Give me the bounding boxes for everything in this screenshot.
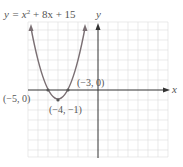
point-label-neg5-0: (−5, 0) <box>3 93 30 105</box>
point-label-neg4-neg1: (−4, −1) <box>49 104 82 116</box>
point-vertex <box>56 98 59 101</box>
parabola-graph: y = x2 + 8x + 15 y x (−3, 0) (−5, 0) (−4… <box>0 0 183 167</box>
y-axis-label: y <box>95 8 101 20</box>
point-label-neg3-0: (−3, 0) <box>77 77 104 89</box>
point-root-left <box>46 88 49 91</box>
x-axis-arrow-icon <box>163 88 170 93</box>
curve-arrow-right-icon <box>83 24 88 31</box>
point-root-right <box>66 88 69 91</box>
y-axis-arrow-icon <box>96 23 101 30</box>
equation-label: y = x2 + 8x + 15 <box>3 8 76 20</box>
x-axis-label: x <box>171 83 177 95</box>
curve-arrow-left-icon <box>29 24 34 31</box>
